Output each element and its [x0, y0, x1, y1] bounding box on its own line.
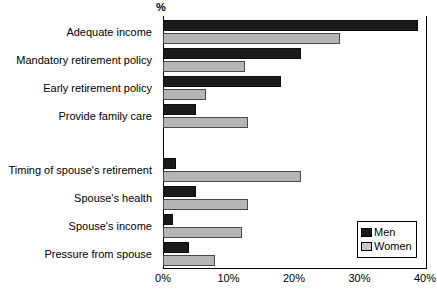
category-label: Pressure from spouse [44, 248, 152, 260]
x-axis-ticks: 0%10%20%30%40% [163, 270, 425, 290]
legend-item-women: Women [361, 240, 412, 253]
bar-men [163, 104, 196, 115]
bar-men [163, 48, 301, 59]
x-tick-label: 20% [283, 272, 305, 285]
category-label: Provide family care [58, 110, 152, 122]
category-label-list: Adequate incomeMandatory retirement poli… [0, 16, 158, 268]
bar-women [163, 61, 245, 72]
bar-group [163, 76, 425, 100]
percent-axis-label: % [156, 1, 166, 13]
bar-group [163, 104, 425, 128]
x-tick-label: 40% [414, 272, 436, 285]
bar-group [163, 20, 425, 44]
category-label: Early retirement policy [43, 82, 152, 94]
bar-women [163, 117, 248, 128]
legend-item-men: Men [361, 226, 412, 239]
category-label: Spouse's income [69, 220, 152, 232]
bar-men [163, 20, 418, 31]
bar-women [163, 89, 206, 100]
x-tick-label: 10% [217, 272, 239, 285]
bar-chart: % Adequate incomeMandatory retirement po… [0, 0, 437, 292]
bar-women [163, 33, 340, 44]
category-label: Timing of spouse's retirement [8, 164, 152, 176]
bar-women [163, 227, 242, 238]
bar-men [163, 76, 281, 87]
bar-group [163, 158, 425, 182]
category-label: Adequate income [66, 26, 152, 38]
x-tick-label: 30% [348, 272, 370, 285]
bar-women [163, 171, 301, 182]
bar-men [163, 214, 173, 225]
legend: Men Women [357, 221, 417, 258]
legend-label-women: Women [374, 240, 412, 253]
legend-swatch-men-icon [361, 228, 372, 237]
bar-men [163, 186, 196, 197]
x-tick-label: 0% [155, 272, 171, 285]
category-label: Spouse's health [74, 192, 152, 204]
bar-group [163, 186, 425, 210]
bar-men [163, 242, 189, 253]
category-label: Mandatory retirement policy [16, 54, 152, 66]
bar-group [163, 48, 425, 72]
bar-women [163, 255, 215, 266]
bar-women [163, 199, 248, 210]
legend-label-men: Men [374, 226, 395, 239]
legend-swatch-women-icon [361, 242, 372, 251]
bar-men [163, 158, 176, 169]
